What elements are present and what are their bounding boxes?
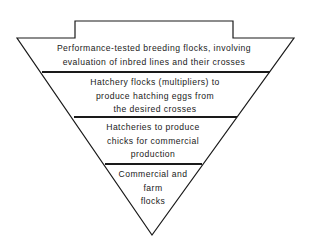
tier-3-line-3: production [106, 148, 200, 162]
tier-1-line-1: Performance-tested breeding flocks, invo… [57, 42, 251, 56]
tier-2-line-1: Hatchery flocks (multipliers) to [90, 76, 220, 90]
tier-3-line-2: chicks for commercial [106, 135, 200, 149]
tier-2-line-3: the desired crosses [90, 103, 220, 117]
tier-2-label: Hatchery flocks (multipliers) to produce… [90, 76, 220, 117]
tier-4-label: Commercial and farm flocks [119, 168, 188, 209]
tier-4-line-2: farm [119, 182, 188, 196]
tier-4-line-3: flocks [119, 195, 188, 209]
tier-1-label: Performance-tested breeding flocks, invo… [57, 42, 251, 69]
tier-3-line-1: Hatcheries to produce [106, 121, 200, 135]
tier-1-line-2: evaluation of inbred lines and their cro… [57, 56, 251, 70]
tier-2-line-2: produce hatching eggs from [90, 90, 220, 104]
tier-3-label: Hatcheries to produce chicks for commerc… [106, 121, 200, 162]
tier-4-line-1: Commercial and [119, 168, 188, 182]
